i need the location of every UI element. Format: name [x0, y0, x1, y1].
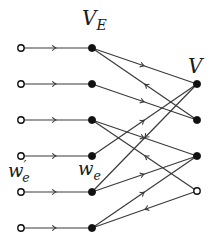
edge-m1-r1 [92, 48, 197, 84]
bipartite-graph [0, 0, 216, 244]
node-r1-filled [193, 80, 200, 87]
edge-l2-m2 [21, 81, 92, 86]
label-w-e: we [78, 160, 101, 182]
edge-r4-m6 [92, 191, 197, 228]
node-m3-filled [88, 116, 95, 123]
edge-r2-m1 [92, 48, 197, 120]
node-r2-filled [193, 116, 200, 123]
node-l1-hollow [18, 45, 24, 51]
nodes-layer [18, 44, 201, 231]
edge-m6-r3 [92, 156, 197, 228]
edge-l5-m5 [21, 189, 92, 194]
label-w-e-prime: w′e [8, 160, 30, 184]
edge-l6-m6 [21, 225, 92, 230]
edge-r4-m3 [92, 120, 197, 191]
node-m1-filled [88, 44, 95, 51]
node-m2-filled [88, 80, 95, 87]
edge-l3-m3 [21, 117, 92, 122]
edge-l1-m1 [21, 45, 92, 50]
edge-m2-r2 [92, 84, 197, 120]
edge-r1-m5 [92, 84, 197, 192]
node-l5-hollow [18, 189, 24, 195]
edge-m4-r1 [92, 84, 197, 156]
label-v-e: VE [82, 8, 107, 32]
node-m6-filled [88, 224, 95, 231]
node-r4-hollow [194, 188, 200, 194]
node-l6-hollow [18, 225, 24, 231]
node-m5-filled [88, 188, 95, 195]
node-l2-hollow [18, 81, 24, 87]
edge-m5-r3 [92, 156, 197, 192]
edges-layer [21, 45, 197, 230]
label-v: V [188, 56, 202, 76]
node-l3-hollow [18, 117, 24, 123]
node-r3-filled [193, 152, 200, 159]
